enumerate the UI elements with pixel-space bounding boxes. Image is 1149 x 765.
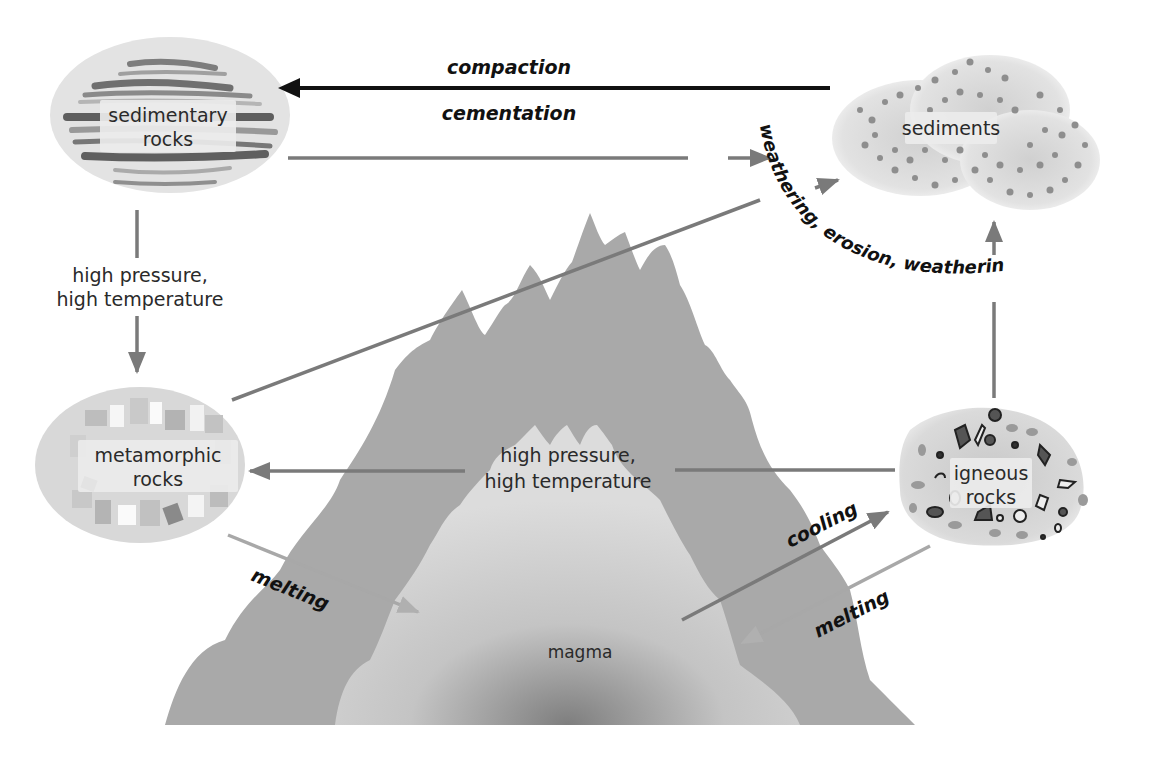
sedimentary-label-line2: rocks	[143, 128, 193, 150]
sedimentary-rocks-node: sedimentary rocks	[50, 37, 290, 193]
igneous-rocks-node: igneous rocks	[899, 408, 1088, 546]
sedimentary-label-line1: sedimentary	[108, 104, 227, 126]
ign-to-meta-label-line2: high temperature	[485, 470, 652, 492]
cementation-label: cementation	[442, 102, 576, 124]
metamorphic-label-line1: metamorphic	[94, 444, 221, 466]
igneous-label-line1: igneous	[954, 462, 1029, 484]
arrow-compaction-cementation	[278, 78, 830, 98]
compaction-label: compaction	[447, 56, 571, 78]
sediments-label: sediments	[902, 117, 1001, 139]
igneous-label-line2: rocks	[966, 486, 1016, 508]
sed-to-meta-label-line2: high temperature	[57, 288, 224, 310]
metamorphic-label-line2: rocks	[133, 468, 183, 490]
sed-to-meta-label-line1: high pressure,	[72, 264, 208, 286]
ign-to-meta-label-line1: high pressure,	[500, 444, 636, 466]
rock-cycle-diagram: sedimentary rocks sediments	[0, 0, 1149, 765]
metamorphic-rocks-node: metamorphic rocks	[35, 387, 245, 543]
sediments-node: sediments	[832, 55, 1100, 210]
magma-label: magma	[548, 642, 613, 662]
